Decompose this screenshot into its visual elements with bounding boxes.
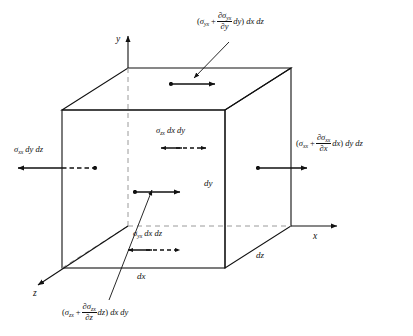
back-area: dx dy [167, 125, 185, 135]
left-sigma-subscript: xx [18, 149, 23, 155]
stress-element-figure: (σyx +∂σyx∂ydy) dx dz (σxx +∂σxx∂xdx) dy… [0, 0, 413, 336]
right-partial-fraction: ∂σxx∂x [316, 133, 331, 154]
label-left-face-stress: σxx dy dz [14, 145, 43, 155]
leader-line-top [194, 42, 229, 78]
right-plus: + [310, 138, 315, 148]
top-fraction-denominator: ∂y [217, 22, 232, 32]
label-back-face-stress: σzx dx dy [156, 126, 185, 136]
dimension-label-dx: dx [137, 271, 146, 281]
axis-label-y: y [116, 34, 120, 44]
cube-front-face [62, 110, 225, 268]
bottom-sigma-subscript: zx [69, 312, 74, 318]
cube-top-face [62, 68, 291, 110]
back-sigma-subscript: zx [160, 130, 165, 136]
label-bottom-face-stress: σyx dx dz [133, 229, 162, 239]
top-plus: + [211, 16, 216, 26]
cube-geometry [0, 0, 413, 336]
bottomface-sigma-subscript: yx [137, 233, 142, 239]
dimension-label-dz: dz [256, 250, 264, 260]
right-sigma-subscript: xx [303, 143, 308, 149]
leader-line-bottom [109, 190, 152, 300]
right-fraction-denominator: ∂x [316, 144, 331, 154]
bottom-plus: + [76, 307, 81, 317]
right-area: dy dz [345, 138, 363, 148]
label-right-face-stress: (σxx +∂σxx∂xdx) dy dz [296, 134, 363, 155]
bottom-close-paren: ) [105, 307, 108, 317]
bottomface-area: dx dz [144, 228, 162, 238]
label-front-face-stress: (σzx +∂σzx∂zdz) dx dy [62, 303, 128, 324]
top-partial-fraction: ∂σyx∂y [217, 11, 232, 32]
label-top-face-stress: (σyx +∂σyx∂ydy) dx dz [197, 12, 264, 33]
dimension-label-dy: dy [204, 178, 213, 188]
axis-label-x: x [313, 231, 317, 241]
axis-label-z: z [33, 288, 37, 298]
bottom-fraction-denominator: ∂z [82, 313, 97, 323]
axis-z [38, 226, 128, 285]
bottom-area: dx dy [110, 307, 128, 317]
top-close-paren: ) [241, 16, 244, 26]
right-close-paren: ) [340, 138, 343, 148]
cube-hidden-edges [62, 68, 291, 268]
top-area: dx dz [246, 16, 264, 26]
bottom-partial-fraction: ∂σzx∂z [82, 302, 97, 323]
left-area: dy dz [25, 144, 43, 154]
top-sigma-subscript: yx [204, 21, 209, 27]
